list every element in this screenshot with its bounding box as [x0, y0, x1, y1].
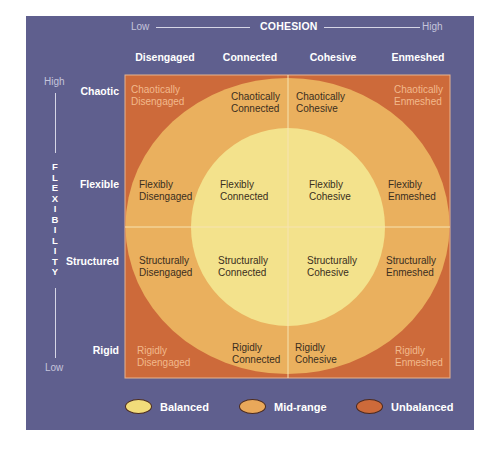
cell-flexibly-cohesive: Flexibly Cohesive — [309, 179, 351, 203]
midrange-swatch-icon — [239, 399, 266, 414]
cell-chaotically-connected: Chaotically Connected — [231, 91, 280, 115]
cell-line: Structurally — [307, 255, 357, 267]
legend-item-unbalanced: Unbalanced — [356, 399, 453, 414]
cell-flexibly-connected: Flexibly Connected — [220, 179, 268, 203]
legend-item-balanced: Balanced — [125, 399, 209, 414]
legend-label: Mid-range — [274, 401, 327, 413]
cell-flexibly-enmeshed: Flexibly Enmeshed — [388, 179, 436, 203]
cell-structurally-enmeshed: Structurally Enmeshed — [386, 255, 436, 279]
cell-line: Chaotically — [394, 84, 443, 96]
unbalanced-swatch-icon — [356, 399, 383, 414]
cell-line: Structurally — [218, 255, 268, 267]
cell-line: Cohesive — [307, 267, 357, 279]
cell-line: Enmeshed — [394, 96, 443, 108]
legend-label: Unbalanced — [391, 401, 453, 413]
cell-chaotically-cohesive: Chaotically Cohesive — [296, 91, 345, 115]
cell-structurally-disengaged: Structurally Disengaged — [139, 255, 192, 279]
cell-line: Enmeshed — [395, 357, 443, 369]
cell-line: Connected — [220, 191, 268, 203]
cell-rigidly-disengaged: Rigidly Disengaged — [137, 345, 190, 369]
cell-line: Flexibly — [309, 179, 351, 191]
cell-structurally-connected: Structurally Connected — [218, 255, 268, 279]
cell-line: Rigidly — [232, 342, 280, 354]
cell-line: Chaotically — [296, 91, 345, 103]
cell-line: Cohesive — [295, 354, 337, 366]
cell-line: Cohesive — [296, 103, 345, 115]
cell-line: Chaotically — [131, 84, 184, 96]
cell-rigidly-enmeshed: Rigidly Enmeshed — [395, 345, 443, 369]
cell-structurally-cohesive: Structurally Cohesive — [307, 255, 357, 279]
cell-line: Cohesive — [309, 191, 351, 203]
cell-line: Disengaged — [131, 96, 184, 108]
cell-line: Disengaged — [139, 191, 192, 203]
cell-line: Enmeshed — [386, 267, 436, 279]
cell-line: Rigidly — [295, 342, 337, 354]
cell-chaotically-disengaged: Chaotically Disengaged — [131, 84, 184, 108]
cell-line: Chaotically — [231, 91, 280, 103]
legend-label: Balanced — [160, 401, 209, 413]
cell-line: Connected — [232, 354, 280, 366]
cell-line: Disengaged — [139, 267, 192, 279]
cell-rigidly-connected: Rigidly Connected — [232, 342, 280, 366]
balanced-swatch-icon — [125, 399, 152, 414]
cell-line: Rigidly — [137, 345, 190, 357]
cell-flexibly-disengaged: Flexibly Disengaged — [139, 179, 192, 203]
cell-line: Flexibly — [220, 179, 268, 191]
cell-rigidly-cohesive: Rigidly Cohesive — [295, 342, 337, 366]
cell-line: Disengaged — [137, 357, 190, 369]
cell-line: Connected — [218, 267, 268, 279]
cell-line: Connected — [231, 103, 280, 115]
cell-line: Structurally — [139, 255, 192, 267]
cell-chaotically-enmeshed: Chaotically Enmeshed — [394, 84, 443, 108]
legend-item-midrange: Mid-range — [239, 399, 327, 414]
cell-line: Rigidly — [395, 345, 443, 357]
cell-line: Structurally — [386, 255, 436, 267]
cell-line: Flexibly — [388, 179, 436, 191]
cell-line: Flexibly — [139, 179, 192, 191]
cell-line: Enmeshed — [388, 191, 436, 203]
circumplex-graphic — [0, 0, 489, 459]
